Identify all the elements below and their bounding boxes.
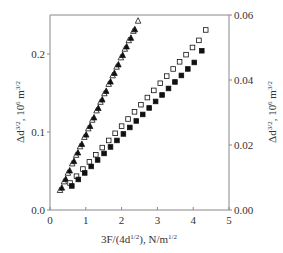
left-y-tick-label: 0.2 xyxy=(31,48,45,60)
open-square-marker xyxy=(139,102,144,107)
right-y-tick-label: 0.00 xyxy=(234,204,254,216)
filled-square-marker xyxy=(140,112,145,117)
right-y-tick-label: 0.04 xyxy=(234,74,254,86)
open-square-marker xyxy=(203,28,208,33)
open-square-marker xyxy=(197,38,202,43)
chart-figure: 012345 0.00.10.2 0.000.020.040.06 3F/(4d… xyxy=(0,0,283,253)
open-square-marker xyxy=(177,60,182,65)
left-y-tick-label: 0.0 xyxy=(31,204,45,216)
right-y-tick-label: 0.06 xyxy=(234,9,254,21)
x-tick-label: 1 xyxy=(83,214,89,226)
filled-square-marker xyxy=(108,145,113,150)
filled-square-marker xyxy=(134,119,139,124)
open-square-marker xyxy=(184,52,189,57)
x-tick-label: 3 xyxy=(155,214,161,226)
open-square-marker xyxy=(106,138,111,143)
open-square-marker xyxy=(132,110,137,115)
open-square-marker xyxy=(145,95,150,100)
filled-square-marker xyxy=(160,93,165,98)
filled-square-marker xyxy=(115,138,120,143)
series-filled-squares xyxy=(70,48,205,188)
filled-square-marker xyxy=(102,151,107,156)
open-square-marker xyxy=(171,67,176,72)
series-open-triangles xyxy=(57,18,141,193)
filled-square-marker xyxy=(153,99,158,104)
filled-square-marker xyxy=(89,164,94,169)
filled-square-marker xyxy=(173,80,178,85)
filled-square-marker xyxy=(166,86,171,91)
filled-square-marker xyxy=(179,73,184,78)
filled-square-marker xyxy=(147,106,152,111)
open-square-marker xyxy=(126,117,131,122)
open-square-marker xyxy=(158,81,163,86)
open-triangle-marker xyxy=(135,18,141,24)
right-y-tick-label: 0.02 xyxy=(234,139,253,151)
x-tick-label: 2 xyxy=(119,214,125,226)
filled-square-marker xyxy=(186,67,191,72)
filled-square-marker xyxy=(199,48,204,53)
left-y-axis-title: Δd3/2, 106 m3/2 xyxy=(14,81,26,143)
filled-square-marker xyxy=(95,158,100,163)
right-y-axis-ticks: 0.000.020.040.06 xyxy=(229,9,254,216)
left-y-tick-label: 0.1 xyxy=(31,126,45,138)
open-square-marker xyxy=(152,88,157,93)
data-points xyxy=(57,18,208,193)
x-tick-label: 5 xyxy=(226,214,232,226)
x-tick-label: 0 xyxy=(47,214,53,226)
left-y-axis-ticks: 0.00.10.2 xyxy=(31,48,50,216)
open-square-marker xyxy=(119,124,124,129)
open-square-marker xyxy=(113,131,118,136)
filled-square-marker xyxy=(76,177,81,182)
filled-square-marker xyxy=(192,60,197,65)
filled-square-marker xyxy=(70,184,75,189)
filled-square-marker xyxy=(128,125,133,130)
right-y-axis-title: Δd3/2, 106 m3/2 xyxy=(266,81,278,143)
open-square-marker xyxy=(190,45,195,50)
open-square-marker xyxy=(100,145,105,150)
x-tick-label: 4 xyxy=(190,214,196,226)
filled-square-marker xyxy=(82,171,87,176)
filled-square-marker xyxy=(121,132,126,137)
open-square-marker xyxy=(94,152,99,157)
open-square-marker xyxy=(164,74,169,79)
open-square-marker xyxy=(87,160,92,165)
x-axis-title: 3F/(4d1/2), N/m1/2 xyxy=(101,233,177,246)
series-open-squares xyxy=(68,28,208,186)
